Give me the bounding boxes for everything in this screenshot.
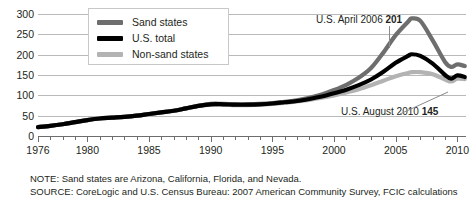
chart-legend: Sand statesU.S. totalNon-sand states xyxy=(88,8,229,65)
legend-swatch-icon xyxy=(97,52,123,57)
x-tick-label-2000: 2000 xyxy=(322,145,345,156)
x-tick-1992 xyxy=(235,136,236,140)
legend-swatch-icon xyxy=(97,36,123,41)
x-tick-label-1980: 1980 xyxy=(76,145,99,156)
x-tick-2004 xyxy=(383,136,384,140)
y-axis: 300250200150100500 xyxy=(0,14,34,136)
x-tick-1997 xyxy=(297,136,298,140)
x-tick-1998 xyxy=(309,136,310,140)
annotation-peak-leader-line xyxy=(389,26,390,48)
legend-item-label: U.S. total xyxy=(132,33,175,44)
x-tick-1976 xyxy=(38,136,39,142)
x-tick-1996 xyxy=(285,136,286,140)
x-tick-1991 xyxy=(223,136,224,140)
x-tick-1987 xyxy=(174,136,175,140)
legend-item-label: Sand states xyxy=(132,17,187,28)
x-tick-1993 xyxy=(248,136,249,140)
y-tick-label-150: 150 xyxy=(0,70,34,81)
x-tick-1983 xyxy=(124,136,125,140)
legend-swatch-icon xyxy=(97,20,123,25)
x-tick-2005 xyxy=(396,136,397,142)
x-tick-2009 xyxy=(445,136,446,140)
x-tick-2008 xyxy=(433,136,434,140)
legend-item: Sand states xyxy=(89,14,228,30)
x-tick-2001 xyxy=(346,136,347,140)
x-tick-label-1985: 1985 xyxy=(137,145,160,156)
x-tick-1994 xyxy=(260,136,261,140)
x-tick-label-2005: 2005 xyxy=(384,145,407,156)
x-tick-1977 xyxy=(50,136,51,140)
x-tick-1988 xyxy=(186,136,187,140)
x-tick-1999 xyxy=(322,136,323,140)
annotation-peak-value: 201 xyxy=(385,14,402,25)
legend-item: Non-sand states xyxy=(89,46,228,62)
y-tick-label-250: 250 xyxy=(0,29,34,40)
x-tick-2000 xyxy=(334,136,335,142)
legend-item: U.S. total xyxy=(89,30,228,46)
y-tick-label-100: 100 xyxy=(0,90,34,101)
annotation-peak: U.S. April 2006 201 xyxy=(316,14,402,25)
x-tick-2002 xyxy=(359,136,360,140)
x-tick-1985 xyxy=(149,136,150,142)
x-tick-label-1990: 1990 xyxy=(199,145,222,156)
x-tick-label-2010: 2010 xyxy=(446,145,469,156)
x-tick-1990 xyxy=(211,136,212,142)
footnotes: NOTE: Sand states are Arizona, Californi… xyxy=(30,172,470,198)
x-tick-1984 xyxy=(137,136,138,140)
y-tick-label-200: 200 xyxy=(0,50,34,61)
x-axis: 19761980198519901995200020052010 xyxy=(38,136,466,166)
x-tick-2007 xyxy=(420,136,421,140)
x-tick-1980 xyxy=(87,136,88,142)
x-tick-2010 xyxy=(457,136,458,142)
footnote-line: SOURCE: CoreLogic and U.S. Census Bureau… xyxy=(30,185,470,198)
y-tick-label-300: 300 xyxy=(0,9,34,20)
x-tick-2006 xyxy=(408,136,409,140)
x-tick-1995 xyxy=(272,136,273,142)
footnote-line: NOTE: Sand states are Arizona, Californi… xyxy=(30,172,470,185)
x-tick-1978 xyxy=(63,136,64,140)
x-tick-1982 xyxy=(112,136,113,140)
housing-price-index-chart: 300250200150100500 197619801985199019952… xyxy=(0,0,475,209)
annotation-peak-prefix: U.S. April 2006 xyxy=(316,14,385,25)
y-tick-label-50: 50 xyxy=(0,111,34,122)
x-tick-2003 xyxy=(371,136,372,140)
x-tick-1981 xyxy=(100,136,101,140)
x-tick-label-1995: 1995 xyxy=(261,145,284,156)
x-tick-1986 xyxy=(161,136,162,140)
x-tick-1989 xyxy=(198,136,199,140)
legend-item-label: Non-sand states xyxy=(132,49,208,60)
x-tick-label-1976: 1976 xyxy=(26,145,49,156)
y-tick-label-0: 0 xyxy=(0,131,34,142)
x-tick-1979 xyxy=(75,136,76,140)
annotation-last-leader-line xyxy=(400,92,456,114)
